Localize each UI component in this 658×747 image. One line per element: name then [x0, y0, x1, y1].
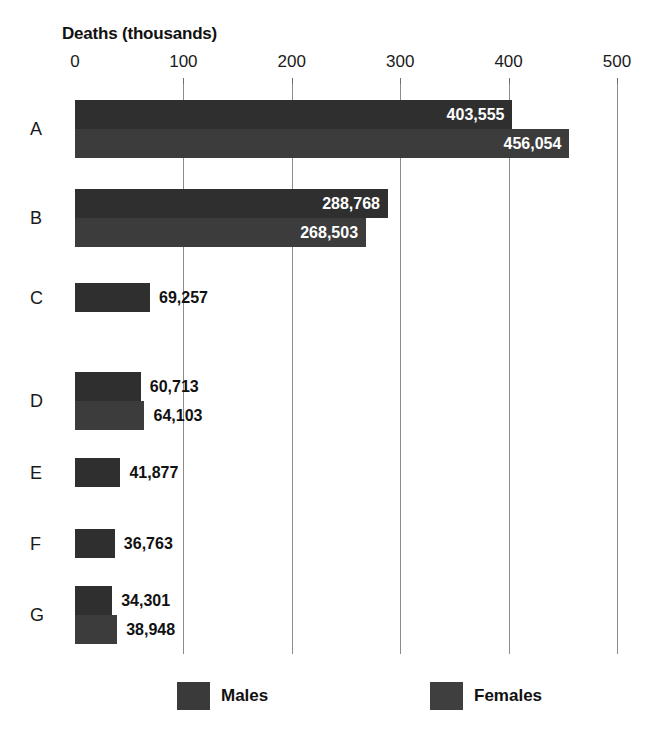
bar-value-label: 41,877 — [129, 458, 178, 487]
bar-fill — [75, 529, 115, 558]
category-label-g: G — [30, 606, 44, 624]
bar-value-label: 268,503 — [300, 218, 358, 247]
bar-group-g: G34,30138,948 — [0, 586, 658, 644]
bar-group-e: E41,877 — [0, 458, 658, 487]
bar-fill — [75, 586, 112, 615]
gridline-300 — [400, 84, 401, 654]
bar-a-females[interactable]: 456,054 — [75, 129, 569, 158]
bar-fill — [75, 283, 150, 312]
gridline-200 — [292, 84, 293, 654]
legend-label: Females — [474, 686, 542, 706]
bar-b-males[interactable]: 288,768 — [75, 189, 388, 218]
category-label-e: E — [30, 464, 42, 482]
bar-group-a: A403,555456,054 — [0, 100, 658, 158]
bar-f-males[interactable]: 36,763 — [75, 529, 115, 558]
bar-value-label: 288,768 — [322, 189, 380, 218]
bar-group-c: C69,257 — [0, 283, 658, 312]
legend-swatch-males — [177, 682, 210, 710]
bar-d-females[interactable]: 64,103 — [75, 401, 144, 430]
legend-item-males[interactable]: Males — [177, 682, 268, 710]
bar-group-d: D60,71364,103 — [0, 372, 658, 430]
legend-item-females[interactable]: Females — [430, 682, 542, 710]
category-label-b: B — [30, 209, 42, 227]
legend-swatch-females — [430, 682, 463, 710]
bar-value-label: 34,301 — [121, 586, 170, 615]
bar-fill — [75, 615, 117, 644]
bar-e-males[interactable]: 41,877 — [75, 458, 120, 487]
bar-value-label: 60,713 — [150, 372, 199, 401]
bar-g-males[interactable]: 34,301 — [75, 586, 112, 615]
category-label-c: C — [30, 289, 43, 307]
chart-legend: MalesFemales — [0, 682, 658, 722]
bar-c-males[interactable]: 69,257 — [75, 283, 150, 312]
bar-fill — [75, 129, 569, 158]
bar-value-label: 69,257 — [159, 283, 208, 312]
bar-group-b: B288,768268,503 — [0, 189, 658, 247]
bar-value-label: 456,054 — [504, 129, 562, 158]
bar-fill — [75, 458, 120, 487]
bar-chart: Deaths (thousands) 0100200300400500 Male… — [0, 0, 658, 747]
bar-d-males[interactable]: 60,713 — [75, 372, 141, 401]
bar-fill — [75, 401, 144, 430]
bar-value-label: 64,103 — [153, 401, 202, 430]
bar-value-label: 403,555 — [447, 100, 505, 129]
legend-label: Males — [221, 686, 268, 706]
category-label-a: A — [30, 120, 42, 138]
bar-a-males[interactable]: 403,555 — [75, 100, 512, 129]
gridline-100 — [183, 84, 184, 654]
gridline-400 — [509, 84, 510, 654]
bar-fill — [75, 372, 141, 401]
bar-g-females[interactable]: 38,948 — [75, 615, 117, 644]
category-label-f: F — [30, 535, 41, 553]
bar-value-label: 38,948 — [126, 615, 175, 644]
bar-value-label: 36,763 — [124, 529, 173, 558]
bar-b-females[interactable]: 268,503 — [75, 218, 366, 247]
bar-group-f: F36,763 — [0, 529, 658, 558]
category-label-d: D — [30, 392, 43, 410]
gridline-500 — [617, 84, 618, 654]
